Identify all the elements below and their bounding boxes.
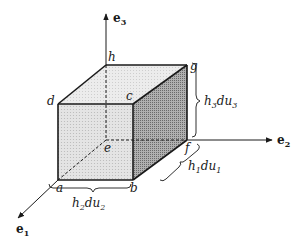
axis-label-e2: e2 xyxy=(277,133,290,149)
volume-element-diagram: e3 e2 e1 a b c d e f g h h3du3 h2du2 h1d… xyxy=(0,0,298,239)
vertex-label-d: d xyxy=(47,94,55,108)
axis-label-e3: e3 xyxy=(113,11,127,27)
vertex-label-h: h xyxy=(108,50,116,64)
dimension-label-h2du2: h2du2 xyxy=(72,196,105,212)
diagram-canvas: e3 e2 e1 a b c d e f g h h3du3 h2du2 h1d… xyxy=(0,0,298,239)
vertex-label-f: f xyxy=(184,141,192,155)
vertex-label-b: b xyxy=(130,181,138,195)
axis-label-e1: e1 xyxy=(16,222,29,238)
dimension-label-h1du1: h1du1 xyxy=(188,159,221,175)
vertex-label-c: c xyxy=(126,89,133,103)
dimension-label-h3du3: h3du3 xyxy=(204,94,237,110)
vertex-label-a: a xyxy=(56,181,63,195)
brace-h3du3 xyxy=(192,63,200,137)
axis-e1 xyxy=(18,180,58,218)
front-face xyxy=(58,104,133,180)
vertex-label-g: g xyxy=(190,59,198,73)
vertex-label-e: e xyxy=(104,141,111,155)
